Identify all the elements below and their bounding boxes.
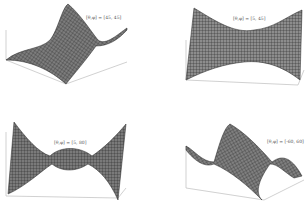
surface-plot-4: [θ,φ] = [-60, 60]	[154, 102, 308, 204]
saddle-surface-graphic	[0, 102, 154, 204]
surface-plot-2: [θ,φ] = [5, 45]	[154, 0, 308, 102]
view-angle-label: [θ,φ] = [5, 45]	[233, 16, 265, 21]
saddle-surface-graphic	[154, 102, 308, 204]
surface-plot-3: [θ,φ] = [5, 80]	[0, 102, 154, 204]
view-angle-label: [θ,φ] = [45, 45]	[86, 15, 121, 20]
saddle-surface-graphic	[0, 0, 154, 102]
view-angle-label: [θ,φ] = [5, 80]	[54, 140, 86, 145]
surface-plot-1: [θ,φ] = [45, 45]	[0, 0, 154, 102]
saddle-surface-graphic	[154, 0, 308, 102]
view-angle-label: [θ,φ] = [-60, 60]	[267, 139, 304, 144]
